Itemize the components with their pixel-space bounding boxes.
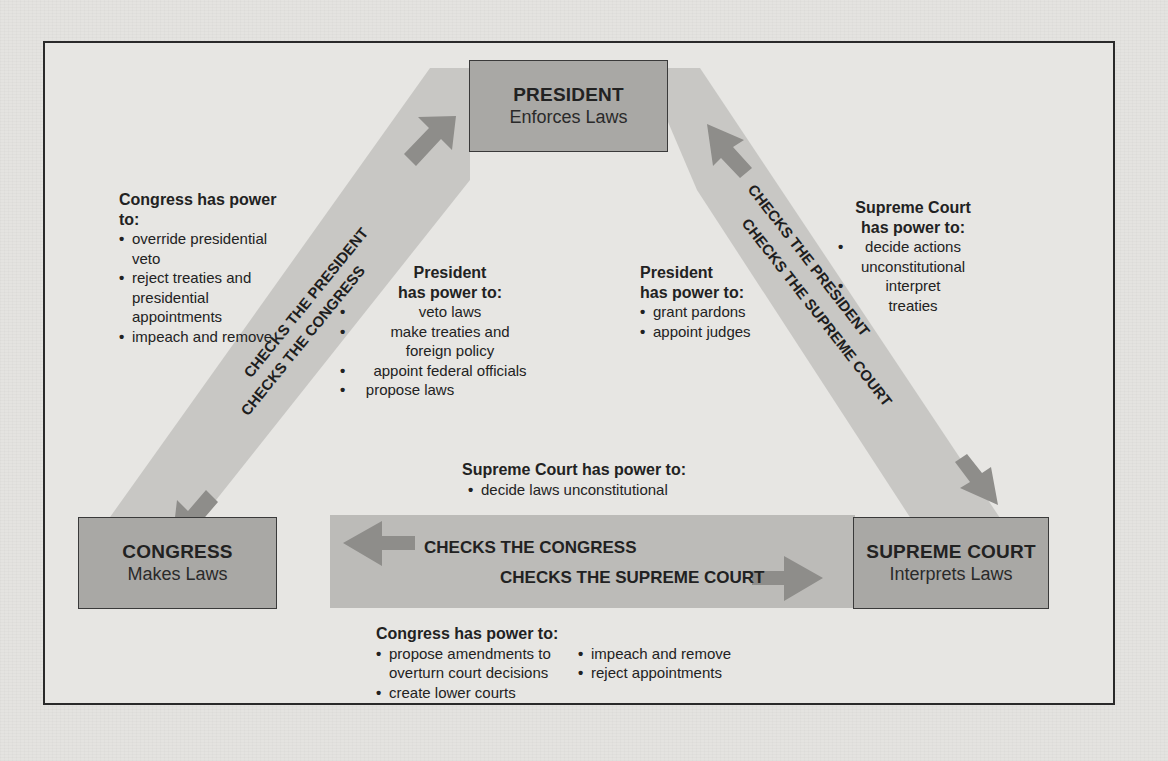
president-box: PRESIDENT Enforces Laws <box>469 60 668 152</box>
court-over-president-powers: Supreme Court has power to: decide actio… <box>838 198 988 315</box>
supreme-court-box: SUPREME COURT Interprets Laws <box>853 517 1049 609</box>
powers-heading-line2: has power to: <box>640 283 780 303</box>
congress-box: CONGRESS Makes Laws <box>78 517 277 609</box>
bottom-check-band <box>330 515 855 608</box>
powers-heading-line2: has power to: <box>838 218 988 238</box>
president-over-court-powers: President has power to: grant pardons ap… <box>640 263 780 341</box>
power-item: grant pardons <box>640 302 780 322</box>
powers-heading: Supreme Court has power to: <box>462 460 762 480</box>
congress-over-court-powers: Congress has power to: propose amendment… <box>376 624 796 702</box>
power-item: propose amendments to overturn court dec… <box>376 644 556 683</box>
president-over-congress-powers: President has power to: veto laws make t… <box>340 263 560 400</box>
congress-over-president-powers: Congress has power to: override presiden… <box>119 190 279 346</box>
supreme-court-subtitle: Interprets Laws <box>889 564 1012 585</box>
bottom-band-upper-label: CHECKS THE CONGRESS <box>424 538 637 558</box>
power-item: appoint federal officials <box>340 361 560 381</box>
power-item: interpret treaties <box>838 276 988 315</box>
power-item: override presidential veto <box>119 229 279 268</box>
powers-heading-line2: has power to: <box>340 283 560 303</box>
power-item: make treaties and foreign policy <box>340 322 560 361</box>
powers-heading: Congress has power to: <box>119 190 279 229</box>
court-over-congress-powers: Supreme Court has power to: decide laws … <box>462 460 762 499</box>
bottom-band-lower-label: CHECKS THE SUPREME COURT <box>500 568 764 588</box>
powers-heading: Congress has power to: <box>376 624 796 644</box>
power-item: decide actions unconstitutional <box>838 237 988 276</box>
power-item: decide laws unconstitutional <box>468 480 762 500</box>
powers-heading-line1: President <box>640 263 780 283</box>
power-item: reject appointments <box>578 663 731 683</box>
power-item: impeach and remove <box>578 644 731 664</box>
power-item: appoint judges <box>640 322 780 342</box>
power-item: veto laws <box>340 302 560 322</box>
congress-title: CONGRESS <box>122 541 232 563</box>
president-title: PRESIDENT <box>513 84 624 106</box>
congress-subtitle: Makes Laws <box>127 564 227 585</box>
president-subtitle: Enforces Laws <box>509 107 627 128</box>
supreme-court-title: SUPREME COURT <box>866 541 1035 563</box>
power-item: impeach and remove <box>119 327 279 347</box>
power-item: create lower courts <box>376 683 556 703</box>
power-item: reject treaties and presidential appoint… <box>119 268 279 327</box>
powers-heading-line1: Supreme Court <box>838 198 988 218</box>
power-item: propose laws <box>340 380 480 400</box>
powers-heading-line1: President <box>340 263 560 283</box>
